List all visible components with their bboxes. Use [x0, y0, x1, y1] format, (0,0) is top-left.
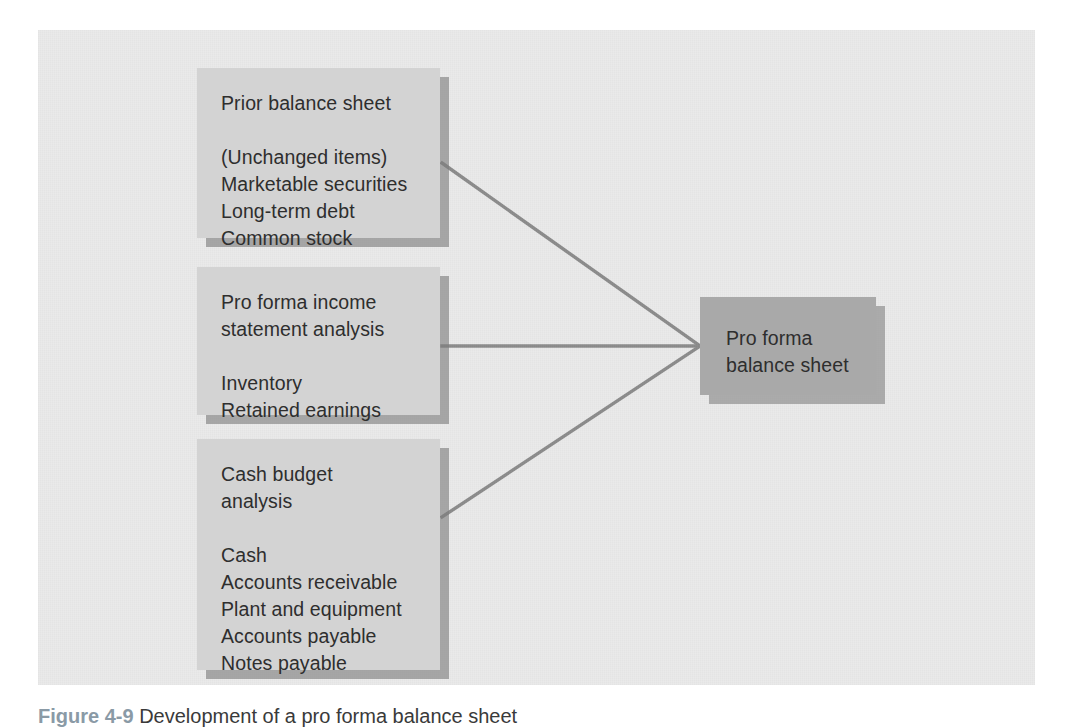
connector-layer	[38, 30, 1035, 685]
figure-panel: Prior balance sheet (Unchanged items) Ma…	[38, 30, 1035, 685]
node-prior-balance-sheet: Prior balance sheet (Unchanged items) Ma…	[197, 68, 440, 238]
figure-caption-text: Development of a pro forma balance sheet	[139, 705, 517, 727]
connector-prior-balance-sheet-to-pro-forma	[442, 163, 700, 346]
node-pro-forma-balance-sheet: Pro forma balance sheet	[700, 297, 876, 395]
figure-caption-label: Figure 4-9	[38, 705, 134, 727]
connector-cash-budget-to-pro-forma	[442, 346, 700, 517]
node-income-statement-items: Inventory Retained earnings	[221, 370, 440, 424]
node-prior-balance-sheet-items: (Unchanged items) Marketable securities …	[221, 144, 440, 252]
node-cash-budget: Cash budget analysis Cash Accounts recei…	[197, 439, 440, 670]
node-income-statement: Pro forma income statement analysis Inve…	[197, 267, 440, 415]
node-income-statement-title: Pro forma income statement analysis	[221, 289, 440, 343]
node-cash-budget-title: Cash budget analysis	[221, 461, 440, 515]
node-pro-forma-balance-sheet-title: Pro forma balance sheet	[726, 325, 876, 379]
node-cash-budget-items: Cash Accounts receivable Plant and equip…	[221, 542, 440, 677]
figure-caption: Figure 4-9 Development of a pro forma ba…	[38, 703, 1038, 727]
node-prior-balance-sheet-title: Prior balance sheet	[221, 90, 440, 117]
